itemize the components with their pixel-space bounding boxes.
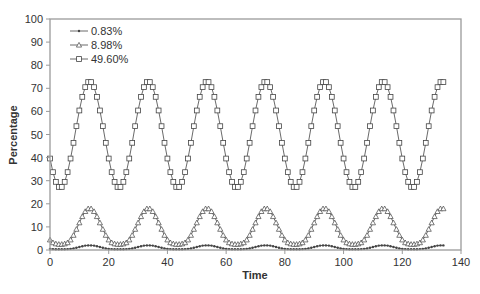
y-tick-label: 0 xyxy=(37,244,43,256)
triangle-marker-icon xyxy=(71,233,76,238)
dot-marker-icon xyxy=(201,244,203,246)
square-marker-icon xyxy=(244,156,249,161)
triangle-marker-icon xyxy=(100,227,105,232)
triangle-marker-icon xyxy=(221,233,226,238)
square-marker-icon xyxy=(224,156,229,161)
dot-marker-icon xyxy=(339,247,341,249)
square-marker-icon xyxy=(124,170,129,175)
square-marker-icon xyxy=(230,179,235,184)
dot-marker-icon xyxy=(157,246,159,248)
square-marker-icon xyxy=(274,108,279,113)
dot-marker-icon xyxy=(248,247,250,249)
square-marker-icon xyxy=(303,156,308,161)
square-marker-icon xyxy=(136,108,141,113)
legend-label: 49.60% xyxy=(91,53,129,65)
legend-item: 0.83% xyxy=(70,25,122,37)
square-marker-icon xyxy=(200,85,205,90)
triangle-marker-icon xyxy=(271,214,276,219)
square-marker-icon xyxy=(338,140,343,145)
dot-marker-icon xyxy=(257,245,259,247)
square-marker-icon xyxy=(280,140,285,145)
square-marker-icon xyxy=(397,140,402,145)
square-marker-icon xyxy=(359,170,364,175)
triangle-marker-icon xyxy=(370,220,375,225)
square-marker-icon xyxy=(191,124,196,129)
square-marker-icon xyxy=(215,108,220,113)
square-marker-icon xyxy=(385,85,390,90)
triangle-marker-icon xyxy=(80,214,85,219)
dot-marker-icon xyxy=(428,246,430,248)
square-marker-icon xyxy=(420,156,425,161)
square-marker-icon xyxy=(318,85,323,90)
dot-marker-icon xyxy=(190,247,192,249)
square-marker-icon xyxy=(432,94,437,99)
square-marker-icon xyxy=(109,170,114,175)
dot-marker-icon xyxy=(269,244,271,246)
square-marker-icon xyxy=(183,170,188,175)
square-marker-icon xyxy=(100,124,105,129)
triangle-marker-icon xyxy=(247,233,252,238)
triangle-marker-icon xyxy=(364,233,369,238)
square-marker-icon xyxy=(194,108,199,113)
square-marker-icon xyxy=(133,124,138,129)
square-marker-icon xyxy=(376,85,381,90)
dot-marker-icon xyxy=(316,245,318,247)
triangle-marker-icon xyxy=(306,233,311,238)
dot-marker-icon xyxy=(254,246,256,248)
dot-marker-icon xyxy=(310,246,312,248)
square-marker-icon xyxy=(177,185,182,190)
square-marker-icon xyxy=(429,108,434,113)
square-marker-icon xyxy=(147,80,152,85)
dot-marker-icon xyxy=(398,247,400,249)
dot-marker-icon xyxy=(425,247,427,249)
triangle-marker-icon xyxy=(420,237,425,242)
triangle-marker-icon xyxy=(391,220,396,225)
triangle-marker-icon xyxy=(394,227,399,232)
square-marker-icon xyxy=(347,179,352,184)
square-marker-icon xyxy=(332,108,337,113)
square-marker-icon xyxy=(89,80,94,85)
square-marker-icon xyxy=(121,179,126,184)
square-marker-icon xyxy=(403,170,408,175)
dot-marker-icon xyxy=(331,245,333,247)
square-marker-icon xyxy=(294,185,299,190)
x-tick-label: 20 xyxy=(103,256,115,268)
triangle-marker-icon xyxy=(429,220,434,225)
dot-marker-icon xyxy=(313,246,315,248)
triangle-marker-icon xyxy=(397,233,402,238)
dot-marker-icon xyxy=(199,245,201,247)
triangle-marker-icon xyxy=(329,214,334,219)
dot-marker-icon xyxy=(137,246,139,248)
series-8.98% xyxy=(47,206,446,246)
dot-marker-icon xyxy=(210,244,212,246)
dot-marker-icon xyxy=(272,245,274,247)
legend: 0.83%8.98%49.60% xyxy=(70,25,129,65)
square-marker-icon xyxy=(388,94,393,99)
dot-marker-icon xyxy=(193,246,195,248)
y-tick-label: 100 xyxy=(25,13,43,25)
triangle-marker-icon xyxy=(312,220,317,225)
legend-label: 0.83% xyxy=(91,25,122,37)
dot-marker-icon xyxy=(378,244,380,246)
square-marker-icon xyxy=(209,85,214,90)
square-marker-icon xyxy=(74,124,79,129)
dot-marker-icon xyxy=(337,246,339,248)
square-marker-icon xyxy=(83,85,88,90)
dot-marker-icon xyxy=(366,247,368,249)
triangle-marker-icon xyxy=(156,220,161,225)
square-marker-icon xyxy=(426,124,431,129)
triangle-marker-icon xyxy=(309,227,314,232)
square-marker-icon xyxy=(300,170,305,175)
triangle-marker-icon xyxy=(68,237,73,242)
triangle-marker-icon xyxy=(303,237,308,242)
dot-marker-icon xyxy=(204,244,206,246)
triangle-marker-icon xyxy=(367,227,372,232)
square-marker-icon xyxy=(329,94,334,99)
square-marker-icon xyxy=(282,156,287,161)
dot-marker-icon xyxy=(442,244,444,246)
triangle-marker-icon xyxy=(133,227,138,232)
square-marker-icon xyxy=(180,179,185,184)
dot-marker-icon xyxy=(78,30,80,32)
square-marker-icon xyxy=(241,170,246,175)
square-marker-icon xyxy=(356,179,361,184)
